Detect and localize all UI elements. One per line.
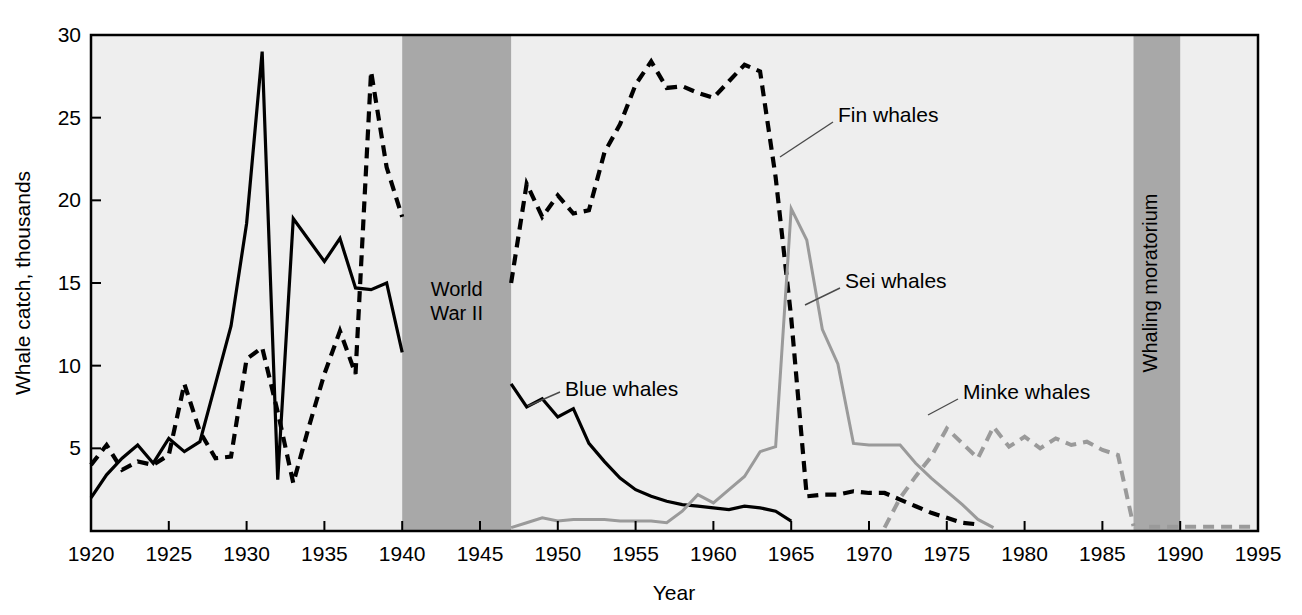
x-tick-label: 1960 [690, 542, 737, 565]
band-label-world-war-ii-line1: World [431, 278, 483, 300]
x-tick-label: 1950 [534, 542, 581, 565]
whale-catch-figure: 51015202530 1920192519301935194019451950… [0, 0, 1302, 615]
y-axis-title: Whale catch, thousands [11, 171, 34, 395]
x-tick-label: 1970 [846, 542, 893, 565]
x-axis-title: Year [653, 581, 695, 604]
whale-catch-chart: 51015202530 1920192519301935194019451950… [0, 0, 1302, 615]
y-tick-label: 25 [58, 106, 81, 129]
x-tick-label: 1985 [1079, 542, 1126, 565]
x-tick-label: 1990 [1157, 542, 1204, 565]
series-label-blue-whales: Blue whales [565, 377, 678, 400]
series-label-fin-whales: Fin whales [838, 103, 938, 126]
x-tick-label: 1975 [923, 542, 970, 565]
y-tick-label: 10 [58, 354, 81, 377]
band-label-world-war-ii-line2: War II [430, 302, 483, 324]
x-tick-label: 1935 [301, 542, 348, 565]
plot-background [91, 35, 1258, 531]
x-tick-label: 1925 [145, 542, 192, 565]
x-tick-label: 1940 [379, 542, 426, 565]
x-tick-label: 1930 [223, 542, 270, 565]
x-tick-label: 1980 [1001, 542, 1048, 565]
series-label-minke-whales: Minke whales [963, 380, 1090, 403]
y-tick-label: 20 [58, 188, 81, 211]
x-tick-label: 1965 [768, 542, 815, 565]
x-tick-label: 1920 [68, 542, 115, 565]
y-tick-label: 30 [58, 23, 81, 46]
x-tick-label: 1955 [612, 542, 659, 565]
band-label-whaling-moratorium: Whaling moratorium [1139, 194, 1161, 373]
y-tick-label: 15 [58, 271, 81, 294]
y-tick-label: 5 [69, 436, 81, 459]
x-tick-label: 1945 [457, 542, 504, 565]
series-label-sei-whales: Sei whales [845, 269, 947, 292]
x-tick-label: 1995 [1235, 542, 1282, 565]
